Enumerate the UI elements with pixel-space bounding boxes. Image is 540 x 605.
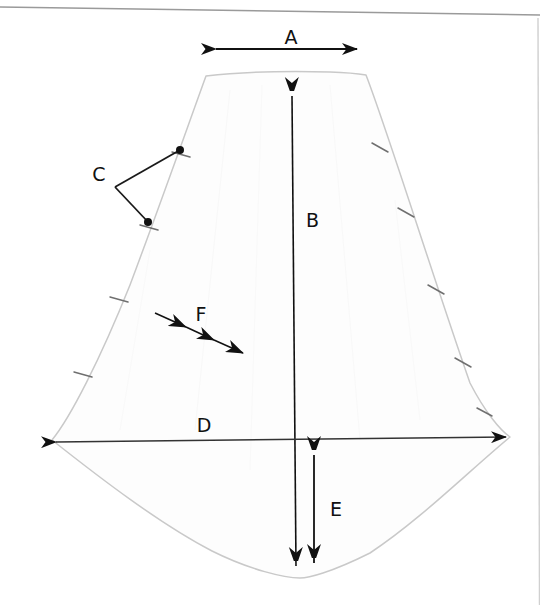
page-top-edge-line: [0, 7, 540, 15]
sail-dimension-diagram: A B C D E F: [0, 0, 540, 605]
dimension-e-label: E: [330, 498, 342, 520]
dimension-b-label: B: [306, 209, 319, 231]
dimension-f-label: F: [196, 303, 207, 325]
page-right-edge-line: [538, 18, 540, 605]
dimension-a-label: A: [285, 26, 298, 48]
dimension-c-leader-lower: [115, 187, 148, 222]
scanned-diagram-page: A B C D E F: [0, 0, 540, 605]
sail-outline: [52, 72, 510, 578]
dimension-c-label: C: [92, 163, 105, 185]
dimension-c-point-upper: [176, 146, 184, 154]
dimension-d-label: D: [197, 414, 212, 436]
dimension-c-point-lower: [144, 218, 152, 226]
dimension-a: A: [216, 26, 357, 49]
